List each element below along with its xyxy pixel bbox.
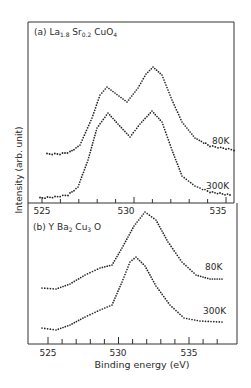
panel-a-label-300k: 300K <box>206 181 229 191</box>
xps-figure <box>0 0 251 388</box>
spectra-curves <box>39 66 235 331</box>
panel-b-label-80k: 80K <box>205 262 222 272</box>
panel-a-label-80k: 80K <box>212 136 229 146</box>
panel-b-x-ticks <box>48 337 217 344</box>
panel-a-sub3: 4 <box>113 31 117 38</box>
panel-a-tick-525: 525 <box>33 206 50 216</box>
panel-b-tick-535: 535 <box>180 348 197 358</box>
panel-a-title: (a) La1.8 Sr0.2 CuO4 <box>34 27 117 38</box>
panel-a-tick-535: 535 <box>209 206 226 216</box>
panel-b-tick-525: 525 <box>39 348 56 358</box>
panel-a-sub2: 0.2 <box>82 31 92 38</box>
panel-b-title-mid: Cu <box>72 222 87 232</box>
panel-b-tick-530: 530 <box>109 348 126 358</box>
y-axis-label: Intensity (arb. unit) <box>14 126 24 213</box>
x-axis-label: Binding energy (eV) <box>95 359 190 370</box>
panel-b-title-text: (b) Y Ba <box>33 222 69 232</box>
panel-b-label-300k: 300K <box>203 306 226 316</box>
panel-a-frame <box>28 22 234 344</box>
panel-a-tick-530: 530 <box>117 206 134 216</box>
panel-a-title-mid: Sr <box>69 27 81 37</box>
panel-a-title-text: (a) La <box>34 27 60 37</box>
panel-b-title-mid2: O <box>91 222 101 232</box>
panel-a-x-ticks <box>42 197 226 203</box>
panel-b-title: (b) Y Ba2 Cu3 O <box>33 222 101 233</box>
panel-a-title-mid2: CuO <box>91 27 113 37</box>
